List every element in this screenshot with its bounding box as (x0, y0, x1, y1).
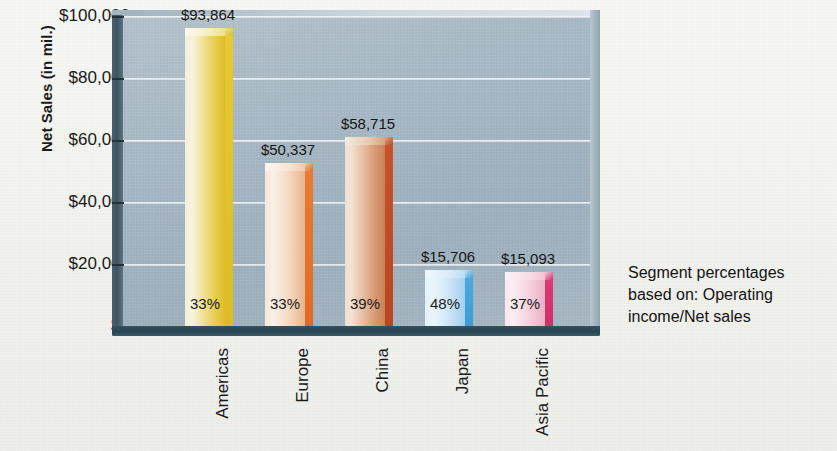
chart-page: Net Sales (in mil.) $100,000$80,000$60,0… (0, 0, 837, 451)
bar-americas[interactable]: 33% (185, 35, 225, 326)
bar-top-face (505, 272, 545, 280)
bar-side-face (225, 35, 233, 326)
bar-value-label: $93,864 (181, 6, 235, 23)
bar-top-side-face (465, 270, 473, 278)
plot-base-platform (112, 326, 600, 336)
bar-body (185, 35, 225, 326)
bar-top-side-face (545, 272, 553, 280)
y-axis-tick-mark (112, 264, 124, 266)
annotation-line: based on: Operating (628, 284, 833, 306)
bar-value-label: $50,337 (261, 141, 315, 158)
y-axis-tick-mark (112, 16, 124, 18)
x-axis-label-asia-pacific: Asia Pacific (533, 348, 553, 436)
chart-annotation: Segment percentagesbased on: Operatingin… (628, 262, 833, 328)
bar-front-face (185, 35, 225, 326)
plot-right-bevel (590, 10, 600, 330)
y-axis-tick-mark (112, 202, 124, 204)
bar-japan[interactable]: 48% (425, 277, 465, 326)
bar-percentage-label: 37% (510, 295, 540, 312)
bar-percentage-label: 33% (190, 295, 220, 312)
bar-top-side-face (225, 28, 233, 36)
annotation-line: income/Net sales (628, 306, 833, 328)
bar-percentage-label: 39% (350, 295, 380, 312)
bar-asia-pacific[interactable]: 37% (505, 279, 545, 326)
annotation-line: Segment percentages (628, 262, 833, 284)
bar-top-side-face (385, 137, 393, 145)
x-axis-label-americas: Americas (213, 348, 233, 419)
bar-top-face (345, 137, 385, 145)
y-axis-tick-mark (112, 140, 124, 142)
plot-frame: 33%$93,86433%$50,33739%$58,71548%$15,706… (112, 10, 600, 336)
bar-top-face (265, 163, 305, 171)
bar-europe[interactable]: 33% (265, 170, 305, 326)
bar-top-face (185, 28, 225, 36)
x-axis-label-china: China (373, 348, 393, 392)
bar-value-label: $15,706 (421, 248, 475, 265)
bar-top-face (425, 270, 465, 278)
plot-area: 33%$93,86433%$50,33739%$58,71548%$15,706… (123, 16, 590, 326)
bar-side-face (545, 279, 553, 326)
bar-value-label: $58,715 (341, 115, 395, 132)
plot-left-wall (112, 15, 123, 326)
bar-china[interactable]: 39% (345, 144, 385, 326)
bar-side-face (465, 277, 473, 326)
bar-value-label: $15,093 (501, 250, 555, 267)
x-axis-label-europe: Europe (293, 348, 313, 403)
bar-top-side-face (305, 163, 313, 171)
y-axis-tick-mark (112, 78, 124, 80)
bar-percentage-label: 33% (270, 295, 300, 312)
bar-side-face (385, 144, 393, 326)
x-axis-label-japan: Japan (453, 348, 473, 394)
bar-percentage-label: 48% (430, 295, 460, 312)
bar-side-face (305, 170, 313, 326)
